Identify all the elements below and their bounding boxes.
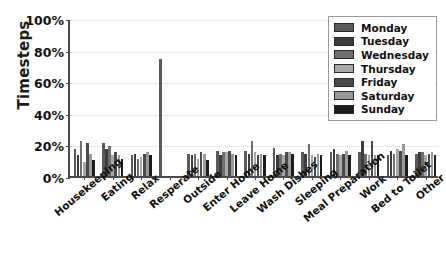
legend-item: Tuesday [334,35,429,49]
legend-swatch [334,50,354,59]
legend-swatch [334,64,354,73]
bar-group [127,20,155,176]
y-tick-label: 20% [34,139,64,154]
bar-group [212,20,240,176]
legend-swatch [334,105,354,114]
y-tick-label: 40% [34,107,64,122]
legend-swatch [334,37,354,46]
y-tick-label: 100% [25,13,64,28]
bar-group [155,20,183,176]
legend-swatch [334,91,354,100]
legend-item: Friday [334,75,429,89]
x-tick-mark [369,176,370,180]
legend-label: Wednesday [361,49,429,61]
y-tick-label: 80% [34,44,64,59]
legend-item: Wednesday [334,48,429,62]
y-tick-label: 60% [34,76,64,91]
figure: Timesteps 0%20%40%60%80%100% Housekeepin… [0,0,446,277]
y-tick-mark [66,178,70,179]
legend-item: Thursday [334,62,429,76]
x-tick-mark [426,176,427,180]
x-tick-mark [227,176,228,180]
bar-group [298,20,326,176]
bar-group [70,20,98,176]
legend-label: Sunday [361,103,405,115]
x-tick-mark [198,176,199,180]
x-tick-mark [113,176,114,180]
legend-swatch [334,23,354,32]
bar-group [98,20,126,176]
bar-group [184,20,212,176]
legend-label: Friday [361,76,397,88]
legend-label: Monday [361,22,407,34]
legend-label: Tuesday [361,35,409,47]
bar [159,59,162,176]
legend-label: Saturday [361,90,414,102]
y-tick-label: 0% [43,171,64,186]
bar-group [241,20,269,176]
bar-group [269,20,297,176]
legend: MondayTuesdayWednesdayThursdayFridaySatu… [328,16,437,121]
legend-item: Sunday [334,103,429,117]
x-tick-mark [170,176,171,180]
legend-item: Monday [334,21,429,35]
legend-label: Thursday [361,63,416,75]
legend-item: Saturday [334,89,429,103]
x-tick-mark [255,176,256,180]
legend-swatch [334,78,354,87]
x-tick-mark [312,176,313,180]
